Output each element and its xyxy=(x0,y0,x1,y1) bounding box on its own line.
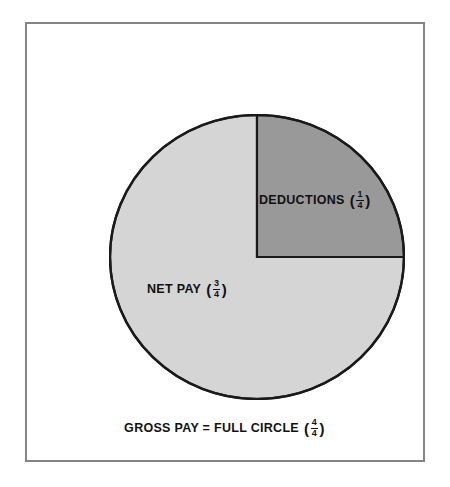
deductions-fraction-denominator: 4 xyxy=(356,200,363,211)
net-pay-fraction-numerator: 3 xyxy=(213,279,220,289)
gross-pay-close-paren: ) xyxy=(319,421,326,436)
gross-pay-fraction-numerator: 4 xyxy=(311,418,318,428)
deductions-fraction: 1 4 xyxy=(356,190,363,211)
gross-pay-caption: GROSS PAY = FULL CIRCLE ( 4 4 ) xyxy=(27,418,423,439)
pie-chart-svg xyxy=(109,114,405,400)
deductions-close-paren: ) xyxy=(364,193,371,208)
net-pay-open-paren: ( xyxy=(205,282,212,297)
deductions-fraction-numerator: 1 xyxy=(356,190,363,200)
net-pay-slice-label: NET PAY ( 3 4 ) xyxy=(147,279,228,300)
pie-slice-deductions xyxy=(257,115,404,257)
gross-pay-fraction: 4 4 xyxy=(311,418,318,439)
net-pay-fraction-denominator: 4 xyxy=(213,289,220,300)
gross-pay-caption-text: GROSS PAY = FULL CIRCLE xyxy=(124,422,299,435)
net-pay-fraction: 3 4 xyxy=(213,279,220,300)
deductions-slice-label: DEDUCTIONS ( 1 4 ) xyxy=(259,190,372,211)
net-pay-close-paren: ) xyxy=(221,282,228,297)
deductions-open-paren: ( xyxy=(349,193,356,208)
figure-frame: DEDUCTIONS ( 1 4 ) NET PAY ( 3 4 ) GROSS… xyxy=(25,22,425,462)
net-pay-label-text: NET PAY xyxy=(147,283,201,296)
pie-chart xyxy=(109,114,405,400)
gross-pay-caption-inner: GROSS PAY = FULL CIRCLE ( 4 4 ) xyxy=(124,418,326,439)
gross-pay-fraction-denominator: 4 xyxy=(311,428,318,439)
deductions-label-text: DEDUCTIONS xyxy=(259,194,345,207)
gross-pay-open-paren: ( xyxy=(303,421,310,436)
